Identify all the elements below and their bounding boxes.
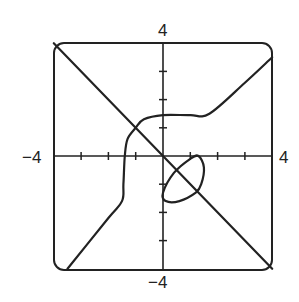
x-min-label: −4 bbox=[22, 149, 41, 166]
y-max-label: 4 bbox=[158, 22, 167, 39]
plot-canvas bbox=[0, 0, 299, 302]
y-min-label: −4 bbox=[148, 274, 167, 291]
x-max-label: 4 bbox=[279, 149, 288, 166]
